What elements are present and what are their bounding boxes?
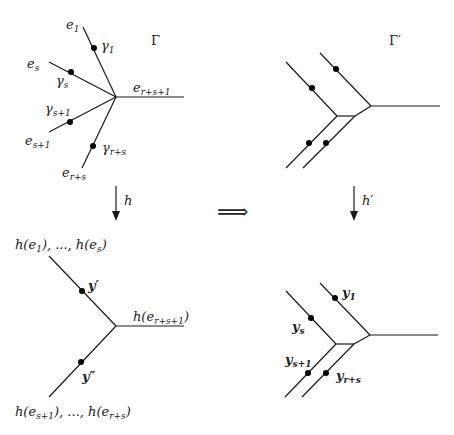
label-gammars: γr+s (102, 140, 127, 157)
point-y-double-prime (78, 359, 84, 365)
label-gammas: γs (56, 73, 69, 90)
label-h-prime: h′ (362, 193, 373, 208)
point-gammas (68, 69, 74, 75)
diagram-canvas: e1 γ1 es γs γs+1 es+1 γr+s er+s er+s+1 Γ… (0, 0, 454, 435)
label-h: h (124, 193, 132, 208)
label-e1: e1 (66, 17, 79, 34)
implies-symbol: ⟹ (217, 199, 249, 224)
label-right-edge: h(er+s+1) (133, 309, 189, 326)
graph-gamma: e1 γ1 es γs γs+1 es+1 γr+s er+s er+s+1 Γ (25, 17, 184, 182)
point-gammas1 (67, 119, 73, 125)
point-left-lower (306, 140, 312, 146)
label-es: es (27, 56, 40, 73)
point-gammars (90, 143, 96, 149)
edge-ers (82, 97, 116, 168)
label-top-edges: h(e1), ..., h(es) (15, 237, 107, 254)
arrow-h-prime: h′ (350, 186, 373, 221)
label-bottom-edges: h(es+1), ..., h(er+s) (15, 404, 131, 421)
label-gammas1: γs+1 (45, 101, 71, 118)
arrow-h: h (112, 186, 132, 221)
label-ys1: ys+1 (284, 352, 311, 369)
label-yrs: yr+s (335, 368, 361, 385)
label-ys: ys (291, 319, 305, 336)
point-y1 (332, 295, 338, 301)
point-yrs (323, 370, 329, 376)
point-ys (308, 315, 314, 321)
graph-h-prime: y1 ys ys+1 yr+s (284, 283, 438, 397)
graph-h: h(e1), ..., h(es) y′ h(er+s+1) y″ h(es+1… (15, 237, 189, 421)
label-y-double-prime: y″ (81, 369, 96, 384)
edge-e1 (83, 27, 116, 97)
title-gamma-prime: Γ′ (389, 33, 401, 48)
point-left-upper (309, 85, 315, 91)
title-gamma: Γ (151, 33, 160, 48)
label-y1: y1 (341, 285, 356, 302)
label-ers1: er+s+1 (133, 80, 170, 97)
label-y-prime: y′ (87, 278, 100, 293)
point-inner-lower (323, 140, 329, 146)
graph-gamma-prime: Γ′ (286, 33, 440, 168)
point-ys1 (305, 370, 311, 376)
label-es1: es+1 (25, 133, 51, 150)
point-upper (333, 66, 339, 72)
point-gamma1 (91, 45, 97, 51)
point-y-prime (79, 288, 85, 294)
label-gamma1: γ1 (101, 38, 115, 55)
